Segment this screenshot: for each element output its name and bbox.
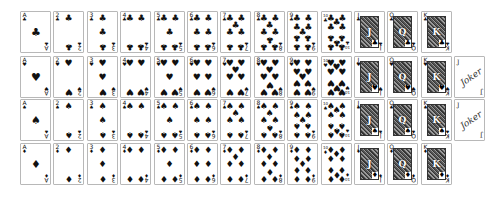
card-a-of-clubs[interactable]: A♣♣A♣ (20, 11, 51, 53)
clubs-pip-icon: ♣ (192, 28, 201, 37)
card-a-of-diamonds[interactable]: A♦♦A♦ (20, 143, 51, 185)
diamonds-icon: ♦ (211, 173, 216, 178)
card-q-of-clubs[interactable]: Q♣Q♣Q♣ (387, 11, 418, 53)
card-10-of-hearts[interactable]: 10♥♥♥♥♥♥♥♥♥♥♥10♥ (321, 56, 352, 98)
card-4-of-clubs[interactable]: 4♣♣♣♣♣4♣ (120, 11, 151, 53)
card-3-of-clubs[interactable]: 3♣♣♣♣3♣ (87, 11, 118, 53)
card-j-of-diamonds[interactable]: J♦J♦J♦ (354, 143, 385, 185)
card-j-of-spades[interactable]: J♠J♠J♠ (354, 99, 385, 141)
clubs-pip-icon: ♣ (64, 42, 73, 51)
card-index-bottom: 2♠ (77, 129, 82, 139)
card-6-of-hearts[interactable]: 6♥♥♥♥♥♥♥6♥ (187, 56, 218, 98)
card-9-of-diamonds[interactable]: 9♦♦♦♦♦♦♦♦♦♦9♦ (287, 143, 318, 185)
spades-pip-icon: ♠ (292, 130, 301, 139)
card-a-of-spades[interactable]: A♠♠A♠ (20, 99, 51, 141)
card-9-of-clubs[interactable]: 9♣♣♣♣♣♣♣♣♣♣9♣ (287, 11, 318, 53)
card-5-of-hearts[interactable]: 5♥♥♥♥♥♥5♥ (154, 56, 185, 98)
spades-pip-icon: ♠ (31, 116, 40, 125)
card-4-of-diamonds[interactable]: 4♦♦♦♦♦4♦ (120, 143, 151, 185)
card-5-of-diamonds[interactable]: 5♦♦♦♦♦♦5♦ (154, 143, 185, 185)
card-5-of-clubs[interactable]: 5♣♣♣♣♣♣5♣ (154, 11, 185, 53)
spades-icon: ♠ (44, 129, 49, 134)
card-index-bottom: A♦ (44, 173, 49, 183)
hearts-pip-icon: ♥ (292, 77, 301, 86)
card-6-of-clubs[interactable]: 6♣♣♣♣♣♣♣6♣ (187, 11, 218, 53)
spades-pip-icon: ♠ (98, 116, 107, 125)
clubs-pip-icon: ♣ (204, 28, 213, 37)
hearts-icon: ♥ (311, 86, 316, 91)
card-3-of-hearts[interactable]: 3♥♥♥♥3♥ (87, 56, 118, 98)
card-q-of-hearts[interactable]: Q♥Q♥Q♥ (387, 56, 418, 98)
card-index-bottom: 8♠ (278, 129, 283, 139)
spades-pip-icon: ♠ (192, 130, 201, 139)
card-q-of-diamonds[interactable]: Q♦Q♦Q♦ (387, 143, 418, 185)
clubs-pip-icon: ♣ (137, 13, 146, 22)
card-5-of-spades[interactable]: 5♠♠♠♠♠♠5♠ (154, 99, 185, 141)
card-index-bottom: 5♠ (178, 129, 183, 139)
face-card-artwork: Q♠ (393, 104, 412, 136)
card-6-of-diamonds[interactable]: 6♦♦♦♦♦♦♦6♦ (187, 143, 218, 185)
card-6-of-spades[interactable]: 6♠♠♠♠♠♠♠6♠ (187, 99, 218, 141)
card-7-of-diamonds[interactable]: 7♦♦♦♦♦♦♦♦7♦ (220, 143, 251, 185)
card-joker-hearts-row[interactable]: JJokerJ (454, 56, 485, 98)
hearts-pip-icon: ♥ (338, 68, 347, 77)
card-3-of-spades[interactable]: 3♠♠♠♠3♠ (87, 99, 118, 141)
clubs-pip-icon: ♣ (125, 13, 134, 22)
card-9-of-spades[interactable]: 9♠♠♠♠♠♠♠♠♠♠9♠ (287, 99, 318, 141)
card-4-of-hearts[interactable]: 4♥♥♥♥♥4♥ (120, 56, 151, 98)
card-a-of-hearts[interactable]: A♥♥A♥ (20, 56, 51, 98)
hearts-pip-icon: ♥ (237, 73, 246, 82)
diamonds-icon: ♦ (411, 173, 416, 178)
card-4-of-spades[interactable]: 4♠♠♠♠♠4♠ (120, 99, 151, 141)
card-2-of-hearts[interactable]: 2♥♥♥2♥ (53, 56, 84, 98)
card-k-of-clubs[interactable]: K♣K♣K♣ (421, 11, 452, 53)
diamonds-pip-icon: ♦ (304, 164, 313, 173)
card-2-of-diamonds[interactable]: 2♦♦♦2♦ (53, 143, 84, 185)
card-2-of-spades[interactable]: 2♠♠♠2♠ (53, 99, 84, 141)
card-10-of-spades[interactable]: 10♠♠♠♠♠♠♠♠♠♠♠10♠ (321, 99, 352, 141)
card-index: J (457, 58, 459, 65)
clubs-pip-icon: ♣ (292, 32, 301, 41)
card-7-of-hearts[interactable]: 7♥♥♥♥♥♥♥♥7♥ (220, 56, 251, 98)
hearts-pip-icon: ♥ (225, 87, 234, 96)
hearts-pip-icon: ♥ (225, 73, 234, 82)
card-9-of-hearts[interactable]: 9♥♥♥♥♥♥♥♥♥♥9♥ (287, 56, 318, 98)
card-index-bottom: 2♦ (77, 173, 82, 183)
card-index-bottom: J (480, 132, 482, 139)
card-2-of-clubs[interactable]: 2♣♣♣2♣ (53, 11, 84, 53)
card-8-of-hearts[interactable]: 8♥♥♥♥♥♥♥♥♥8♥ (254, 56, 285, 98)
card-10-of-clubs[interactable]: 10♣♣♣♣♣♣♣♣♣♣♣10♣ (321, 11, 352, 53)
card-10-of-diamonds[interactable]: 10♦♦♦♦♦♦♦♦♦♦♦10♦ (321, 143, 352, 185)
card-index-bottom: 7♠ (244, 129, 249, 139)
card-k-of-diamonds[interactable]: K♦K♦K♦ (421, 143, 452, 185)
diamonds-pip-icon: ♦ (98, 160, 107, 169)
card-index-bottom: Q♥ (411, 86, 416, 96)
card-8-of-diamonds[interactable]: 8♦♦♦♦♦♦♦♦♦8♦ (254, 143, 285, 185)
clubs-pip-icon: ♣ (98, 42, 107, 51)
spades-pip-icon: ♠ (225, 130, 234, 139)
card-j-of-hearts[interactable]: J♥J♥J♥ (354, 56, 385, 98)
spades-pip-icon: ♠ (192, 116, 201, 125)
hearts-pip-icon: ♥ (192, 87, 201, 96)
card-q-of-spades[interactable]: Q♠Q♠Q♠ (387, 99, 418, 141)
card-7-of-spades[interactable]: 7♠♠♠♠♠♠♠♠7♠ (220, 99, 251, 141)
diamonds-pip-icon: ♦ (292, 174, 301, 183)
card-index-bottom: 8♣ (278, 41, 283, 51)
card-7-of-clubs[interactable]: 7♣♣♣♣♣♣♣♣7♣ (220, 11, 251, 53)
card-joker-spades-row[interactable]: JJokerJ (454, 99, 485, 141)
card-k-of-spades[interactable]: K♠K♠K♠ (421, 99, 452, 141)
card-8-of-clubs[interactable]: 8♣♣♣♣♣♣♣♣♣8♣ (254, 11, 285, 53)
card-j-of-clubs[interactable]: J♣J♣J♣ (354, 11, 385, 53)
hearts-pip-icon: ♥ (64, 58, 73, 67)
clubs-icon: ♣ (378, 41, 383, 46)
hearts-pip-icon: ♥ (204, 73, 213, 82)
card-8-of-spades[interactable]: 8♠♠♠♠♠♠♠♠♠8♠ (254, 99, 285, 141)
spades-pip-icon: ♠ (204, 116, 213, 125)
card-index-bottom: 8♦ (278, 173, 283, 183)
card-3-of-diamonds[interactable]: 3♦♦♦♦3♦ (87, 143, 118, 185)
card-k-of-hearts[interactable]: K♥K♥K♥ (421, 56, 452, 98)
card-index-bottom: 10♥ (345, 85, 350, 96)
hearts-icon: ♥ (411, 86, 416, 91)
diamonds-icon: ♦ (244, 173, 249, 178)
clubs-pip-icon: ♣ (171, 13, 180, 22)
